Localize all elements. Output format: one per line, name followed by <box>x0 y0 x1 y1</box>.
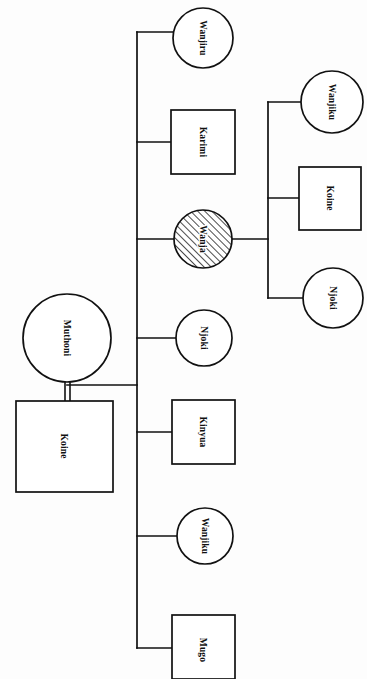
node-wanja[interactable]: Wanja <box>174 210 232 268</box>
node-label-muthoni: Muthoni <box>62 320 72 357</box>
node-koine-grandchild[interactable]: Koine <box>299 167 361 230</box>
node-label-wanjiku-grandchild: Wanjiku <box>327 84 337 121</box>
node-wanjiku-grandchild[interactable]: Wanjiku <box>301 71 363 133</box>
node-muthoni[interactable]: Muthoni <box>23 294 111 382</box>
node-label-kinyua: Kinyua <box>198 417 208 448</box>
node-njoki-child[interactable]: Njoki <box>176 310 232 366</box>
kinship-diagram: Wanjiru Karimi Wanja Njoki Kinyua Wanjik… <box>0 0 367 679</box>
node-kinyua[interactable]: Kinyua <box>172 400 235 464</box>
node-label-wanjiru: Wanjiru <box>198 20 208 56</box>
node-label-wanjiku-child: Wanjiku <box>200 518 210 555</box>
node-label-mugo: Mugo <box>198 638 208 662</box>
node-njoki-grandchild[interactable]: Njoki <box>303 268 363 328</box>
node-karimi[interactable]: Karimi <box>171 110 235 174</box>
node-wanjiru[interactable]: Wanjiru <box>173 8 233 68</box>
node-label-karimi: Karimi <box>198 127 208 158</box>
node-koine-parent[interactable]: Koine <box>16 401 113 492</box>
node-label-njoki-grandchild: Njoki <box>328 286 338 310</box>
node-label-wanja: Wanja <box>198 225 208 253</box>
node-label-koine-grandchild: Koine <box>325 185 335 210</box>
node-label-njoki-child: Njoki <box>199 326 209 350</box>
kinship-diagram-canvas: Wanjiru Karimi Wanja Njoki Kinyua Wanjik… <box>0 0 367 679</box>
node-wanjiku-child[interactable]: Wanjiku <box>177 508 233 564</box>
node-label-koine-parent: Koine <box>59 433 69 458</box>
node-mugo[interactable]: Mugo <box>172 615 235 679</box>
